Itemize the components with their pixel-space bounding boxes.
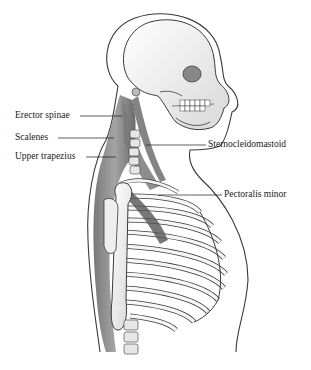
label-pectoralis-minor: Pectoralis minor xyxy=(224,190,287,200)
cervical-spine xyxy=(129,130,140,174)
label-scalenes: Scalenes xyxy=(15,133,48,143)
scapula xyxy=(104,198,118,253)
label-sternocleidomastoid: Sternocleidomastoid xyxy=(208,140,286,150)
lumbar-spine xyxy=(124,320,138,354)
rib-cage xyxy=(122,196,226,330)
skeleton-illustration xyxy=(0,0,311,370)
label-erector-spinae: Erector spinae xyxy=(15,111,70,121)
anatomy-diagram: Erector spinae Scalenes Upper trapezius … xyxy=(0,0,311,370)
label-upper-trapezius: Upper trapezius xyxy=(15,152,75,162)
eye-socket xyxy=(183,66,201,82)
